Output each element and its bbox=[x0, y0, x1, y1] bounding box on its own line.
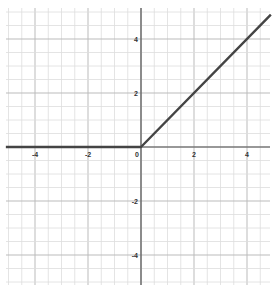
y-tick-label: -2 bbox=[132, 198, 138, 205]
y-tick-label: -4 bbox=[132, 252, 138, 259]
relu-chart: -4-2024-4-224 bbox=[0, 0, 275, 295]
x-tick-label: 0 bbox=[135, 151, 139, 158]
x-tick-label: -4 bbox=[32, 151, 38, 158]
y-tick-label: 4 bbox=[134, 36, 138, 43]
x-tick-label: -2 bbox=[85, 151, 91, 158]
relu-series bbox=[6, 15, 271, 147]
x-tick-label: 4 bbox=[245, 151, 249, 158]
y-tick-label: 2 bbox=[134, 90, 138, 97]
relu-line bbox=[6, 15, 271, 147]
x-tick-label: 2 bbox=[192, 151, 196, 158]
